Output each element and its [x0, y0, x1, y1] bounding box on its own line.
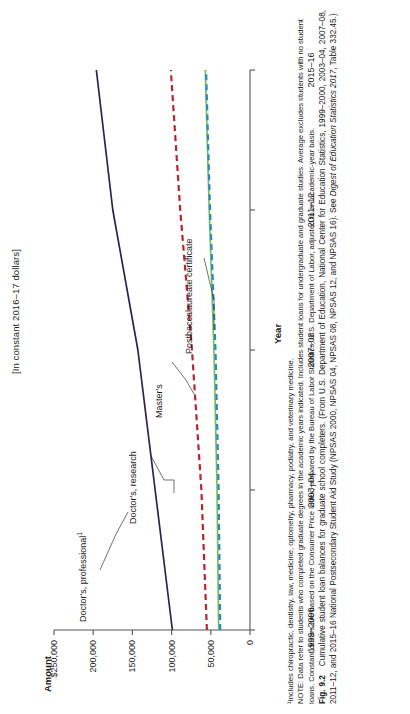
series-label-1: Doctor's, research	[128, 451, 138, 524]
chart-subtitle: [In constant 2016–17 dollars]	[10, 249, 21, 374]
notes-block: ¹Includes chiropractic, dentistry, law, …	[286, 10, 339, 704]
y-axis-ticks	[54, 630, 250, 635]
y-tick-label: 0	[245, 640, 255, 700]
series-line-0	[96, 70, 172, 630]
caption-source-title: Digest of Education Statistics 2017	[329, 70, 338, 197]
y-tick-label: 200,000	[88, 640, 98, 700]
y-tick-label: $250,000	[49, 640, 59, 700]
series-label-3: Postbaccalaureate certificate	[184, 238, 194, 354]
figure-9-2: [In constant 2016–17 dollars] Amount Yea…	[0, 0, 410, 714]
chart-area: [In constant 2016–17 dollars] Amount Yea…	[6, 0, 284, 704]
figure-note: NOTE: Data refer to students who complet…	[296, 10, 317, 704]
caption-spacer	[318, 666, 327, 672]
series-leader-line-2	[172, 362, 194, 394]
caption-tail: , Table 332.45.)	[329, 13, 338, 69]
figure-caption: Fig. 9.2 Cumulative student loan balance…	[317, 10, 340, 704]
rotated-figure-wrapper: [In constant 2016–17 dollars] Amount Yea…	[0, 0, 410, 714]
y-tick-label: 50,000	[206, 640, 216, 700]
y-tick-label: 100,000	[167, 640, 177, 700]
plot-region: $250,000200,000150,000100,00050,0000 199…	[54, 70, 250, 630]
caption-number: Fig. 9.2	[318, 675, 327, 704]
data-series-group	[96, 70, 220, 630]
series-label-2: Master's	[154, 384, 164, 418]
y-tick-label: 150,000	[127, 640, 137, 700]
x-axis-title: Year	[272, 324, 283, 344]
series-leader-line-0	[100, 512, 128, 570]
series-line-2	[205, 70, 218, 630]
figure-footnote: ¹Includes chiropractic, dentistry, law, …	[286, 10, 296, 704]
series-label-0: Doctor's, professional1	[76, 532, 88, 622]
series-label-footnote-marker: 1	[76, 532, 83, 536]
x-axis-ticks	[250, 70, 255, 630]
